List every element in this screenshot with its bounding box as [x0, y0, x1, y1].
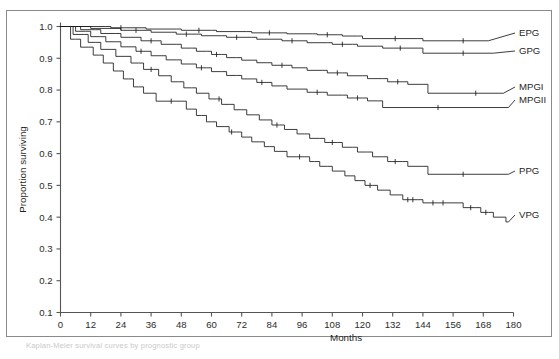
series-mpgi: [61, 27, 504, 96]
axes-layer: 0.10.20.30.40.50.60.70.80.91.00122436486…: [17, 21, 522, 343]
y-axis-title: Proportion surviving: [17, 126, 28, 213]
x-tick-label: 144: [415, 319, 432, 330]
y-tick-label: 0.3: [39, 243, 52, 254]
x-tick-label: 36: [146, 319, 157, 330]
y-tick-label: 1.0: [39, 21, 52, 32]
y-tick-label: 0.4: [39, 212, 53, 223]
y-tick-label: 0.7: [39, 116, 52, 127]
x-tick-label: 132: [385, 319, 401, 330]
curve-line-mpgii: [61, 27, 509, 108]
legend-layer: EPGGPGMPGIMPGIIPPGVPG: [488, 27, 546, 222]
legend-leader-line: [508, 215, 515, 222]
legend-entry-gpg: GPG: [493, 45, 540, 56]
curves-layer: [61, 25, 509, 222]
x-tick-label: 72: [236, 319, 247, 330]
curve-line-ppg: [61, 27, 509, 175]
x-tick-label: 12: [85, 319, 96, 330]
legend-leader-line: [493, 51, 515, 53]
series-ppg: [61, 27, 509, 177]
legend-label: MPGI: [519, 81, 544, 92]
y-tick-label: 0.8: [39, 84, 52, 95]
x-tick-label: 120: [354, 319, 370, 330]
x-tick-label: 60: [206, 319, 217, 330]
legend-leader-line: [508, 171, 515, 174]
legend-label: VPG: [519, 209, 539, 220]
x-tick-label: 96: [297, 319, 308, 330]
legend-leader-line: [488, 33, 515, 41]
x-tick-label: 24: [116, 319, 127, 330]
x-tick-label: 0: [58, 319, 63, 330]
curve-line-mpgi: [61, 27, 504, 94]
curve-line-epg: [61, 27, 489, 41]
y-tick-label: 0.5: [39, 180, 52, 191]
legend-leader-line: [503, 87, 515, 93]
series-mpgii: [61, 27, 509, 111]
x-tick-label: 48: [176, 319, 187, 330]
legend-leader-line: [508, 100, 515, 108]
legend-entry-mpgi: MPGI: [503, 81, 543, 93]
legend-label: PPG: [519, 165, 539, 176]
y-tick-label: 0.6: [39, 148, 52, 159]
survival-plot: 0.10.20.30.40.50.60.70.80.91.00122436486…: [0, 0, 559, 359]
curve-line-gpg: [61, 27, 494, 54]
series-epg: [61, 25, 489, 43]
y-tick-label: 0.9: [39, 53, 52, 64]
legend-entry-epg: EPG: [488, 27, 539, 41]
series-vpg: [61, 27, 509, 222]
figure-root: 0.10.20.30.40.50.60.70.80.91.00122436486…: [0, 0, 559, 359]
x-tick-label: 168: [475, 319, 491, 330]
legend-entry-mpgii: MPGII: [508, 94, 546, 108]
x-tick-label: 180: [505, 319, 521, 330]
x-tick-label: 84: [267, 319, 278, 330]
figure-caption: Kaplan-Meier survival curves by prognost…: [0, 341, 559, 359]
y-tick-label: 0.1: [39, 307, 52, 318]
legend-entry-ppg: PPG: [508, 165, 539, 176]
x-tick-label: 156: [445, 319, 461, 330]
legend-label: GPG: [519, 45, 540, 56]
legend-label: EPG: [519, 27, 539, 38]
legend-label: MPGII: [519, 94, 546, 105]
legend-entry-vpg: VPG: [508, 209, 539, 222]
curve-line-vpg: [61, 27, 509, 222]
x-tick-label: 108: [324, 319, 340, 330]
y-tick-label: 0.2: [39, 275, 52, 286]
